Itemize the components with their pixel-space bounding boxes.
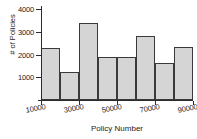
x-axis-line — [38, 100, 193, 101]
y-axis-title: # of Policies — [8, 0, 17, 70]
bar — [174, 47, 193, 100]
x-tick-label: 90000 — [177, 102, 197, 115]
bar — [98, 57, 117, 100]
x-tick-label: 50000 — [101, 102, 122, 115]
bar — [79, 23, 98, 100]
y-tick-mark — [36, 9, 41, 10]
y-tick-label: 3000 — [18, 27, 34, 36]
bar — [136, 36, 155, 100]
bar — [41, 48, 60, 100]
y-tick-label: 4000 — [18, 5, 34, 14]
y-tick-label: 2000 — [18, 50, 34, 59]
x-tick-label: 70000 — [139, 102, 160, 115]
y-tick-mark — [36, 32, 41, 33]
bar — [60, 72, 79, 100]
bar-series — [41, 9, 193, 100]
y-tick-label: 1000 — [18, 73, 34, 82]
x-tick-label: 30000 — [63, 102, 84, 115]
bar — [155, 63, 174, 100]
plot-area — [41, 9, 193, 100]
x-axis-title: Policy Number — [41, 124, 193, 133]
histogram-figure: 1000200030004000 10000300005000070000900… — [0, 0, 197, 139]
y-tick-mark — [36, 55, 41, 56]
y-tick-mark — [36, 77, 41, 78]
y-axis-line — [41, 6, 42, 103]
bar — [117, 57, 136, 100]
x-tick-label: 10000 — [25, 102, 46, 115]
